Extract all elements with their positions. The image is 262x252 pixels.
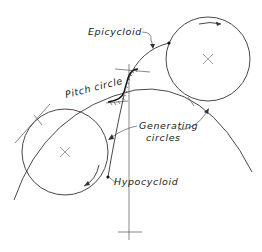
- epicycloid-label: Epicycloid: [88, 26, 142, 37]
- tangent-line: [15, 104, 50, 143]
- epicycloid-tracing-point: [167, 41, 170, 44]
- upper-generating-circle: [166, 17, 250, 101]
- generating-circles-label-1: Generating: [139, 120, 198, 131]
- lower-generating-circle: [22, 109, 108, 195]
- hypocycloid-tracing-point: [106, 175, 109, 178]
- pitch-circle-label: Pitch circle: [64, 75, 124, 100]
- generating-circles-label-2: circles: [146, 132, 181, 143]
- epicycloid-curve: [128, 43, 169, 80]
- cycloidal-gear-diagram: Epicycloid Pitch circle Generating circl…: [0, 0, 262, 252]
- rotation-arrow-icon: [84, 165, 99, 186]
- hypocycloid-label-visible: Hypocycloid: [114, 176, 179, 187]
- epicycloid-leader: [142, 32, 153, 46]
- hypocycloid-curve: [108, 95, 124, 177]
